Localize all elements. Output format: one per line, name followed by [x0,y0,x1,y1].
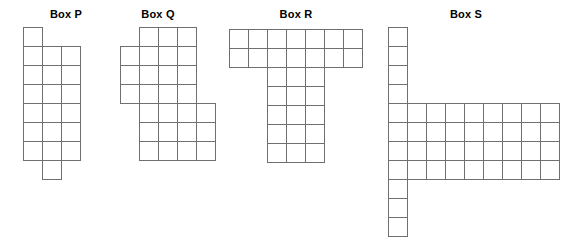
grid-cell [120,46,140,66]
grid-cell [23,103,43,123]
grid-cell [502,122,522,142]
grid-cell [23,65,43,85]
grid-cell [23,122,43,142]
grid-cell [120,65,140,85]
grid-cell [267,143,287,163]
grid-cell [483,141,503,161]
grid-cell [248,48,268,68]
grid-cell [483,160,503,180]
grid-cell [388,84,408,104]
grid-cell [426,141,446,161]
grid-cell [267,105,287,125]
grid-cell [445,160,465,180]
grid-cell [61,141,81,161]
grid-cell [42,141,62,161]
grid-cell [139,103,159,123]
grid-cell [407,160,427,180]
grid-cell [158,46,178,66]
grid-cell [61,46,81,66]
grid-cell [388,160,408,180]
grid-cell [177,141,197,161]
grid-cell [177,46,197,66]
grid-cell [61,65,81,85]
grid-cell [286,86,306,106]
grid-cell [521,122,541,142]
grid-cell [139,27,159,47]
grid-cell [388,198,408,218]
grid-cell [177,65,197,85]
grid-cell [267,29,287,49]
box-s-label: Box S [450,8,482,20]
grid-cell [426,103,446,123]
grid-cell [267,124,287,144]
grid-cell [42,84,62,104]
grid-cell [540,141,560,161]
grid-cell [388,217,408,237]
grid-cell [305,143,325,163]
grid-cell [196,103,216,123]
grid-cell [23,141,43,161]
grid-cell [305,29,325,49]
grid-cell [42,160,62,180]
grid-cell [407,122,427,142]
grid-cell [139,84,159,104]
grid-cell [61,84,81,104]
box-p-grid [23,27,80,179]
grid-cell [61,122,81,142]
grid-cell [120,84,140,104]
grid-cell [483,122,503,142]
grid-cell [177,122,197,142]
grid-cell [464,141,484,161]
grid-cell [286,143,306,163]
grid-cell [407,103,427,123]
grid-cell [464,103,484,123]
grid-cell [158,141,178,161]
grid-cell [286,105,306,125]
grid-cell [388,27,408,47]
grid-cell [267,67,287,87]
grid-cell [388,122,408,142]
grid-cell [23,84,43,104]
grid-cell [464,122,484,142]
box-s-grid [388,27,559,236]
grid-cell [158,27,178,47]
box-r-grid [229,29,362,162]
grid-cell [324,29,344,49]
box-q-grid [120,27,215,160]
grid-cell [42,46,62,66]
grid-cell [61,103,81,123]
grid-cell [305,48,325,68]
grid-cell [42,103,62,123]
grid-cell [177,84,197,104]
grid-cell [305,86,325,106]
grid-cell [158,103,178,123]
grid-cell [324,48,344,68]
grid-cell [158,84,178,104]
grid-cell [23,46,43,66]
grid-cell [196,141,216,161]
grid-cell [540,103,560,123]
grid-cell [229,48,249,68]
box-p-label: Box P [50,8,82,20]
grid-cell [139,46,159,66]
grid-cell [521,103,541,123]
grid-cell [521,141,541,161]
grid-cell [426,122,446,142]
grid-cell [426,160,446,180]
grid-cell [483,103,503,123]
grid-cell [286,124,306,144]
grid-cell [388,46,408,66]
grid-cell [464,160,484,180]
grid-cell [139,65,159,85]
grid-cell [42,122,62,142]
grid-cell [305,124,325,144]
grid-cell [445,122,465,142]
grid-cell [305,105,325,125]
grid-cell [286,29,306,49]
grid-cell [177,103,197,123]
grid-cell [267,86,287,106]
grid-cell [388,179,408,199]
grid-cell [388,141,408,161]
grid-cell [196,122,216,142]
grid-cell [286,48,306,68]
